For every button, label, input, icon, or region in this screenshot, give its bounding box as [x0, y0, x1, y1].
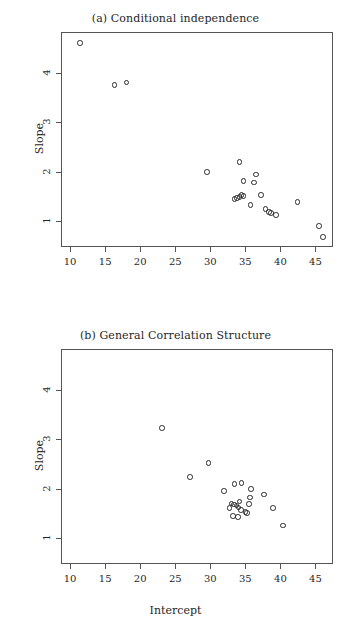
x-axis-tick-label: 25	[169, 573, 182, 584]
data-point	[316, 223, 322, 229]
x-axis-tick	[210, 564, 211, 569]
panel-a-plot-area	[61, 32, 333, 247]
data-point	[232, 481, 238, 487]
data-point	[124, 80, 130, 86]
x-axis-tick-label: 10	[64, 573, 77, 584]
data-point	[237, 159, 243, 165]
data-point	[235, 514, 241, 520]
y-axis-tick	[56, 122, 61, 123]
data-point	[295, 199, 301, 205]
x-axis-tick-label: 25	[169, 256, 182, 267]
panel-b-plot-area	[61, 349, 333, 564]
x-axis-tick-label: 15	[99, 256, 112, 267]
y-axis-tick-label: 4	[41, 382, 52, 396]
data-point	[206, 460, 212, 466]
x-axis-tick	[105, 247, 106, 252]
data-point	[246, 501, 252, 507]
data-point	[253, 172, 259, 178]
y-axis-tick-label: 1	[41, 531, 52, 545]
data-point	[77, 40, 83, 46]
panel-b: (b) General Correlation Structure 101520…	[0, 317, 351, 634]
data-point	[273, 212, 279, 218]
x-axis-tick-label: 20	[134, 573, 147, 584]
data-point	[270, 505, 276, 511]
data-point	[239, 480, 245, 486]
data-point	[241, 178, 247, 184]
x-axis-tick	[210, 247, 211, 252]
x-axis-tick	[315, 247, 316, 252]
y-axis-label: Slope	[33, 98, 46, 178]
x-axis-tick	[140, 247, 141, 252]
y-axis-tick	[56, 172, 61, 173]
x-axis-tick-label: 35	[239, 573, 252, 584]
data-point	[244, 510, 250, 516]
y-axis-tick-label: 4	[41, 65, 52, 79]
y-axis-tick	[56, 489, 61, 490]
data-point	[204, 169, 210, 175]
y-axis-tick	[56, 73, 61, 74]
x-axis-tick-label: 40	[274, 573, 287, 584]
x-axis-tick	[70, 564, 71, 569]
x-axis-tick-label: 35	[239, 256, 252, 267]
x-axis-tick	[175, 564, 176, 569]
data-point	[234, 195, 240, 201]
x-axis-tick-label: 30	[204, 573, 217, 584]
data-point	[227, 505, 233, 511]
x-axis-tick	[140, 564, 141, 569]
x-axis-tick	[280, 564, 281, 569]
data-point	[159, 425, 165, 431]
data-point	[251, 180, 257, 186]
scatter-figure: (a) Conditional independence 10152025303…	[0, 0, 351, 634]
x-axis-tick-label: 10	[64, 256, 77, 267]
x-axis-tick-label: 45	[309, 573, 322, 584]
y-axis-label: Slope	[33, 415, 46, 495]
x-axis-tick-label: 20	[134, 256, 147, 267]
y-axis-tick	[56, 538, 61, 539]
x-axis-tick	[245, 564, 246, 569]
x-axis-tick	[245, 247, 246, 252]
data-point	[187, 474, 193, 480]
data-point	[247, 495, 253, 501]
data-point	[241, 193, 247, 199]
data-point	[248, 486, 254, 492]
panel-a-title: (a) Conditional independence	[0, 12, 351, 25]
panel-b-xlabel: Intercept	[0, 604, 351, 617]
x-axis-tick	[70, 247, 71, 252]
x-axis-tick-label: 45	[309, 256, 322, 267]
x-axis-tick	[315, 564, 316, 569]
x-axis-tick	[280, 247, 281, 252]
data-point	[258, 192, 264, 198]
panel-b-title: (b) General Correlation Structure	[0, 329, 351, 342]
panel-a: (a) Conditional independence 10152025303…	[0, 0, 351, 317]
x-axis-tick	[175, 247, 176, 252]
data-point	[221, 488, 227, 494]
x-axis-tick	[105, 564, 106, 569]
data-point	[261, 492, 267, 498]
data-point	[280, 523, 286, 529]
data-point	[320, 234, 326, 240]
y-axis-tick	[56, 439, 61, 440]
y-axis-tick	[56, 390, 61, 391]
x-axis-tick-label: 30	[204, 256, 217, 267]
data-point	[248, 202, 254, 208]
y-axis-tick	[56, 221, 61, 222]
data-point	[112, 82, 118, 88]
x-axis-tick-label: 40	[274, 256, 287, 267]
x-axis-tick-label: 15	[99, 573, 112, 584]
y-axis-tick-label: 1	[41, 214, 52, 228]
